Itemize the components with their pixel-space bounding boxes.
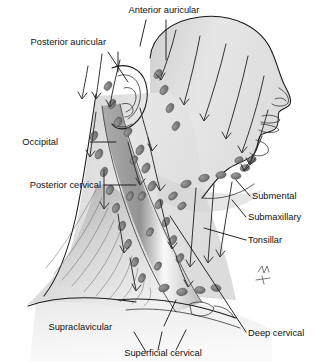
lymph-node-diagram: Anterior auricular Posterior auricular O… <box>0 0 316 362</box>
label-deep-cervical: Deep cervical <box>248 328 304 338</box>
artist-signature <box>256 266 270 284</box>
label-submaxillary: Submaxillary <box>248 212 302 222</box>
label-tonsillar: Tonsillar <box>248 235 282 245</box>
label-posterior-auricular: Posterior auricular <box>31 37 106 47</box>
label-superficial-cervical: Superficial cervical <box>124 348 202 358</box>
leader-anterior-auricular-1 <box>140 20 146 46</box>
label-posterior-cervical: Posterior cervical <box>30 180 101 190</box>
label-supraclavicular: Supraclavicular <box>48 322 112 332</box>
label-occipital: Occipital <box>22 137 58 147</box>
label-anterior-auricular: Anterior auricular <box>129 5 200 15</box>
label-submental: Submental <box>252 191 296 201</box>
